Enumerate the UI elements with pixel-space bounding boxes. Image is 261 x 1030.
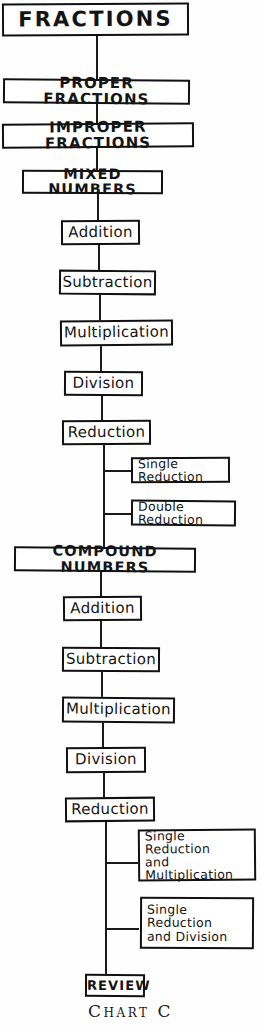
node-label: Single Reduction and Division: [147, 903, 252, 943]
node-label: Addition: [65, 600, 140, 616]
node-label: FRACTIONS: [4, 8, 187, 31]
connector-trunk-12: [102, 722, 104, 749]
connector-trunk-13: [103, 772, 105, 799]
connector-trunk-10: [100, 620, 102, 648]
node-multiplication-compound[interactable]: Multiplication: [62, 697, 175, 724]
connector-trunk-9: [100, 571, 102, 597]
node-subtraction-fractions[interactable]: Subtraction: [59, 270, 156, 296]
connector-trunk-8: [101, 395, 103, 421]
connector-trunk-7: [100, 345, 102, 372]
node-review[interactable]: REVIEW: [85, 974, 145, 997]
branch-stub-single-reduction-multiplication: [105, 862, 139, 864]
connector-trunk-6: [99, 294, 101, 322]
node-double-reduction[interactable]: Double Reduction: [131, 500, 236, 527]
node-label: PROPER FRACTIONS: [5, 75, 188, 108]
node-compound-numbers[interactable]: COMPOUND NUMBERS: [14, 546, 196, 572]
node-label: COMPOUND NUMBERS: [16, 544, 194, 576]
node-label: Double Reduction: [138, 500, 234, 527]
connector-trunk-branches-2: [105, 821, 107, 976]
node-label: Subtraction: [61, 274, 154, 290]
node-label: IMPROPER FRACTIONS: [4, 119, 192, 152]
node-mixed-numbers[interactable]: MIXED NUMBERS: [22, 170, 163, 195]
node-label: Single Reduction and Multiplication: [145, 828, 254, 881]
node-label: Reduction: [67, 801, 153, 817]
node-label: Subtraction: [64, 651, 158, 667]
node-subtraction-compound[interactable]: Subtraction: [62, 647, 160, 673]
node-label: Division: [68, 752, 144, 768]
chart-canvas: FRACTIONS PROPER FRACTIONS IMPROPER FRAC…: [0, 0, 261, 1030]
node-label: Reduction: [64, 424, 149, 440]
node-addition-fractions[interactable]: Addition: [61, 220, 140, 245]
node-reduction-fractions[interactable]: Reduction: [62, 420, 151, 445]
chart-caption: Chart C: [0, 1001, 261, 1021]
branch-stub-single-reduction-division: [105, 928, 139, 930]
node-label: Addition: [63, 224, 138, 240]
node-single-reduction-and-division[interactable]: Single Reduction and Division: [140, 897, 254, 950]
branch-stub-single-reduction: [103, 470, 132, 472]
node-multiplication-fractions[interactable]: Multiplication: [60, 320, 173, 347]
node-improper-fractions[interactable]: IMPROPER FRACTIONS: [2, 122, 194, 149]
node-single-reduction-and-multiplication[interactable]: Single Reduction and Multiplication: [138, 828, 256, 881]
connector-trunk-5: [98, 244, 100, 271]
node-label: Multiplication: [62, 325, 171, 342]
node-single-reduction[interactable]: Single Reduction: [131, 457, 230, 484]
node-label: Multiplication: [64, 702, 173, 719]
node-proper-fractions[interactable]: PROPER FRACTIONS: [3, 78, 190, 104]
node-division-fractions[interactable]: Division: [64, 371, 143, 396]
node-addition-compound[interactable]: Addition: [63, 596, 142, 622]
node-label: MIXED NUMBERS: [24, 166, 161, 197]
node-label: REVIEW: [87, 979, 143, 993]
node-reduction-compound[interactable]: Reduction: [65, 797, 155, 823]
node-fractions[interactable]: FRACTIONS: [2, 3, 189, 37]
node-label: Division: [66, 375, 141, 391]
connector-trunk-branches-1: [103, 444, 105, 549]
node-division-compound[interactable]: Division: [66, 747, 146, 773]
node-label: Single Reduction: [138, 457, 228, 484]
connector-trunk-11: [101, 671, 103, 698]
branch-stub-double-reduction: [103, 513, 132, 515]
